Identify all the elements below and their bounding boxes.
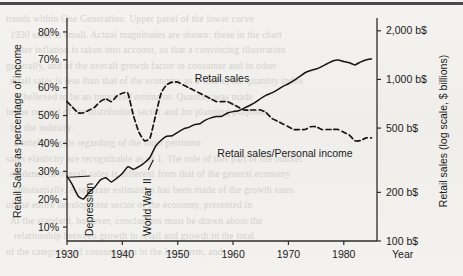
left-tick-label: 50%: [38, 109, 59, 121]
x-tick-label: 1970: [277, 248, 301, 260]
series-retail-sales-personal-income-line: [67, 82, 371, 141]
depression-leader-line: [69, 176, 90, 177]
left-tick-label: 60%: [38, 81, 59, 93]
series-label-retail-sales: Retail sales: [195, 72, 249, 84]
x-tick-label: 1930: [55, 248, 79, 260]
world-war-ii-leader-line: [148, 160, 153, 170]
left-tick-label: 40%: [38, 137, 59, 149]
x-tick-label: 1980: [332, 248, 356, 260]
left-tick-label: 80%: [38, 26, 59, 38]
retail-sales-chart: 10%20%30%40%50%60%70%80% 100 b$200 b$500…: [0, 0, 463, 276]
left-tick-label: 30%: [38, 165, 59, 177]
series-label-retail-sales-personal-income: Retail sales/Personal income: [217, 147, 353, 159]
right-tick-label: 2,000 b$: [386, 24, 427, 36]
right-tick-label: 1,000 b$: [386, 73, 427, 85]
left-tick-label: 70%: [38, 53, 59, 65]
annotation-world-war-ii: World War II: [141, 178, 153, 236]
y-axis-title: Retail Sales as percentage of income: [11, 44, 23, 218]
x-tick-label: 1950: [166, 248, 190, 260]
right-tick-label: 100 b$: [386, 235, 418, 247]
x-axis-ticks: 193019401950196019701980: [55, 241, 355, 260]
y2-axis-title: Retail sales (log scale, $ billions): [437, 55, 449, 207]
x-axis-title: Year: [392, 248, 414, 260]
annotation-depression: Depression: [83, 183, 95, 236]
left-axis-ticks: 10%20%30%40%50%60%70%80%: [38, 26, 67, 233]
right-tick-label: 500 b$: [386, 122, 418, 134]
x-tick-label: 1960: [221, 248, 245, 260]
right-tick-label: 200 b$: [386, 186, 418, 198]
x-tick-label: 1940: [111, 248, 135, 260]
right-axis-ticks: 100 b$200 b$500 b$1,000 b$2,000 b$: [377, 24, 427, 246]
left-tick-label: 20%: [38, 193, 59, 205]
left-tick-label: 10%: [38, 221, 59, 233]
